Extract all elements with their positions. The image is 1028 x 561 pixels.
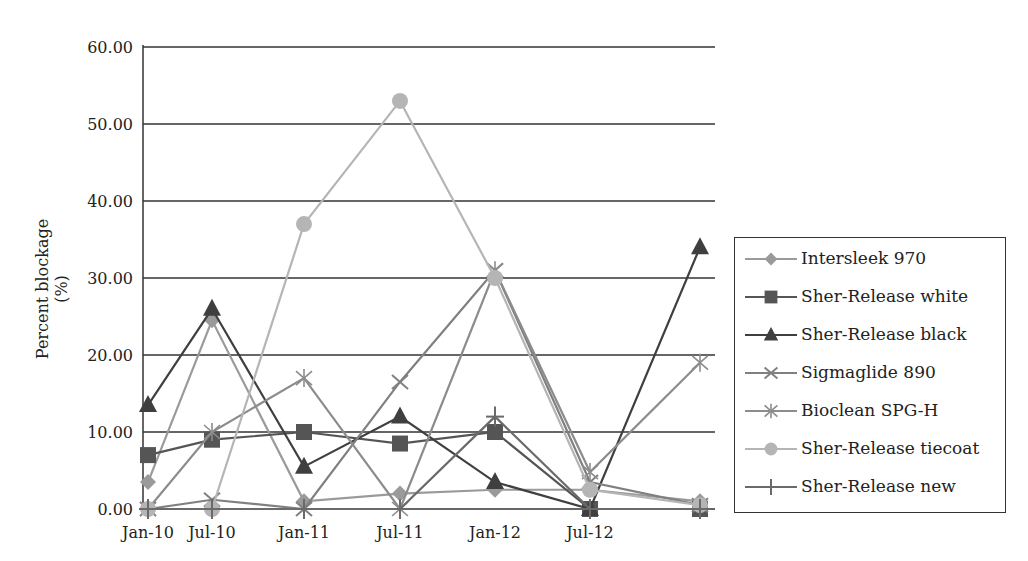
legend-label: Sher-Release tiecoat [801,438,979,458]
svg-text:Jul-11: Jul-11 [374,523,424,542]
triangle-marker-icon [743,316,799,354]
legend-item-sher-release-new: Sher-Release new [735,468,1005,506]
series-sher-release-black [139,237,709,516]
series-bioclean-spg-h [140,261,708,518]
svg-text:0.00: 0.00 [97,500,133,519]
svg-text:Jan-11: Jan-11 [276,523,330,542]
svg-text:10.00: 10.00 [87,423,133,442]
legend-label: Sher-Release new [801,476,956,496]
series-lines [139,93,709,519]
legend-label: Bioclean SPG-H [801,400,938,420]
y-axis-ticks: 0.0010.0020.0030.0040.0050.0060.00 [87,38,133,519]
star-marker-icon [743,392,799,430]
svg-text:30.00: 30.00 [87,269,133,288]
svg-text:20.00: 20.00 [87,346,133,365]
legend-item-sigmaglide-890: Sigmaglide 890 [735,354,1005,392]
legend-item-sher-release-white: Sher-Release white [735,278,1005,316]
legend-item-sher-release-tiecoat: Sher-Release tiecoat [735,430,1005,468]
legend-label: Intersleek 970 [801,248,926,268]
svg-text:Jul-12: Jul-12 [564,523,614,542]
legend-label: Sher-Release black [801,324,966,344]
series-sher-release-tiecoat [140,93,708,517]
legend-label: Sher-Release white [801,286,968,306]
legend-label: Sigmaglide 890 [801,362,936,382]
plus-marker-icon [743,468,799,506]
legend: Intersleek 970 Sher-Release white Sher-R… [734,237,1006,513]
legend-item-bioclean-spg-h: Bioclean SPG-H [735,392,1005,430]
diamond-marker-icon [743,240,799,278]
svg-text:50.00: 50.00 [87,115,133,134]
x-axis-ticks: Jan-10Jul-10Jan-11Jul-11Jan-12Jul-12 [120,523,614,542]
x-marker-icon [743,354,799,392]
circle-marker-icon [743,430,799,468]
svg-text:40.00: 40.00 [87,192,133,211]
legend-item-sher-release-black: Sher-Release black [735,316,1005,354]
legend-item-intersleek-970: Intersleek 970 [735,240,1005,278]
svg-text:Jul-10: Jul-10 [186,523,236,542]
svg-text:Jan-12: Jan-12 [467,523,521,542]
series-intersleek-970 [140,312,708,509]
series-sigmaglide-890 [140,263,708,516]
svg-text:60.00: 60.00 [87,38,133,57]
y-axis-label: Percent blockage (%) [33,209,71,369]
square-marker-icon [743,278,799,316]
svg-text:Jan-10: Jan-10 [120,523,174,542]
